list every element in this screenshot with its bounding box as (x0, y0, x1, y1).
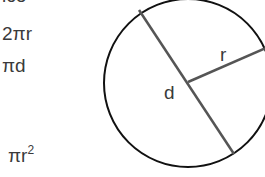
diameter-label: d (164, 83, 175, 102)
circle-outline (104, 0, 265, 167)
circle-diagram (0, 0, 265, 177)
radius-line (188, 48, 265, 82)
diameter-line (139, 10, 234, 154)
radius-label: r (220, 45, 226, 64)
